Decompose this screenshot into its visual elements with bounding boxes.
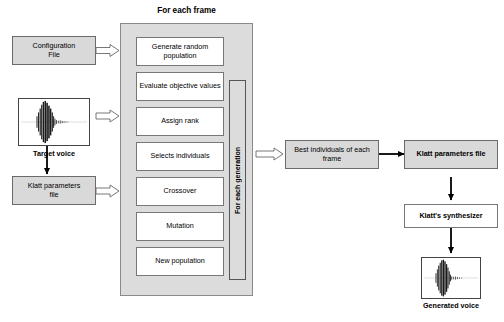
configuration-file-label: Configuration File <box>33 42 76 59</box>
generated-voice-waveform <box>421 257 481 299</box>
for-each-frame-title: For each frame <box>120 6 253 15</box>
node-mutation[interactable]: Mutation <box>136 212 224 241</box>
node-selects-individuals[interactable]: Selects individuals <box>136 142 224 171</box>
node-assign-rank[interactable]: Assign rank <box>136 107 224 136</box>
assign-rank-label: Assign rank <box>161 117 199 125</box>
for-each-generation-label-wrap: For each generation <box>229 80 246 280</box>
generate-random-population-label: Generate random population <box>137 43 223 60</box>
node-configuration-file[interactable]: Configuration File <box>12 36 96 65</box>
generated-voice-caption: Generated voice <box>414 302 488 311</box>
node-evaluate-objective-values[interactable]: Evaluate objective values <box>136 72 224 101</box>
klatt-parameters-file-input-label: Klatt parameters file <box>28 182 81 199</box>
klatt-synthesizer-label: Klatt's synthesizer <box>419 212 482 220</box>
node-generate-random-population[interactable]: Generate random population <box>136 37 224 66</box>
node-klatt-parameters-file-output[interactable]: Klatt parameters file <box>404 140 498 169</box>
new-population-label: New population <box>155 257 205 265</box>
mutation-label: Mutation <box>166 222 194 230</box>
evaluate-objective-values-label: Evaluate objective values <box>139 82 220 90</box>
best-individuals-label: Best individuals of each frame <box>286 146 378 163</box>
flowchart-diagram: For each frame Configuration File <box>0 0 504 322</box>
target-voice-caption: Target voice <box>10 150 98 159</box>
klatt-parameters-file-output-label: Klatt parameters file <box>416 150 485 158</box>
for-each-generation-label: For each generation <box>234 147 241 214</box>
target-voice-waveform <box>18 98 90 146</box>
node-best-individuals[interactable]: Best individuals of each frame <box>285 140 379 169</box>
node-klatt-parameters-file-input[interactable]: Klatt parameters file <box>12 176 96 205</box>
selects-individuals-label: Selects individuals <box>150 152 209 160</box>
crossover-label: Crossover <box>164 187 197 195</box>
node-klatt-synthesizer[interactable]: Klatt's synthesizer <box>404 204 498 228</box>
node-new-population[interactable]: New population <box>136 247 224 276</box>
node-crossover[interactable]: Crossover <box>136 177 224 206</box>
